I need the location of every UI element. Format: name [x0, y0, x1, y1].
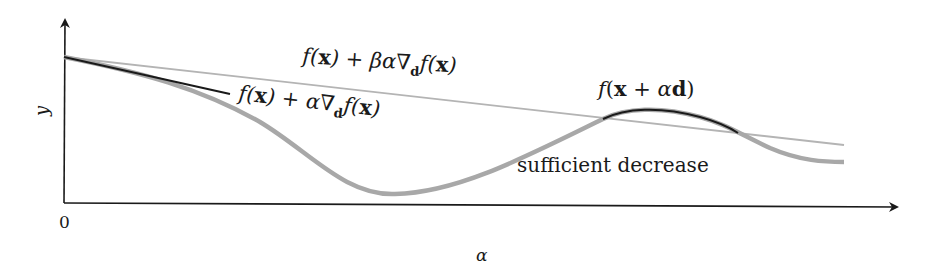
origin-tick-label: 0	[59, 212, 70, 232]
x-axis-label: α	[476, 245, 488, 265]
function-curve	[64, 57, 844, 194]
y-axis	[64, 20, 65, 203]
x-axis	[64, 203, 897, 207]
sufficient-decrease-annotation: sufficient decrease	[517, 153, 709, 177]
y-axis-label: y	[31, 105, 52, 117]
function-curve-label: f(x + αd)	[596, 76, 695, 101]
sufficient-decrease-diagram: f(x) + βα∇df(x) f(x) + α∇df(x) f(x + αd)…	[0, 0, 939, 274]
tangent-line	[64, 57, 230, 94]
sufficient-line-label: f(x) + βα∇df(x)	[299, 43, 457, 81]
